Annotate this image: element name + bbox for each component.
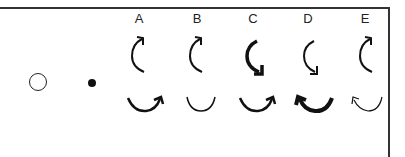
frame-right-border (388, 7, 390, 157)
filled-dot-icon (88, 79, 96, 87)
option-e-top-arrow-icon (356, 34, 380, 74)
option-b-bottom-arc-icon (184, 94, 218, 116)
option-label-b: B (187, 11, 207, 26)
option-label-a: A (129, 11, 149, 26)
option-c-bottom-arrow-icon (238, 94, 278, 116)
option-b-top-arrow-icon (186, 34, 210, 74)
option-a-bottom-arrow-icon (126, 94, 166, 116)
option-label-d: D (298, 11, 318, 26)
option-e-bottom-arrow-icon (349, 94, 385, 116)
option-c-top-arrow-icon (243, 38, 269, 78)
option-a-top-arrow-icon (128, 34, 152, 74)
option-label-e: E (355, 11, 375, 26)
open-circle-icon (29, 73, 47, 91)
option-d-bottom-arrow-icon (293, 94, 335, 116)
option-d-top-arrow-icon (300, 38, 324, 78)
option-label-c: C (243, 11, 263, 26)
frame-top-border (0, 7, 390, 9)
